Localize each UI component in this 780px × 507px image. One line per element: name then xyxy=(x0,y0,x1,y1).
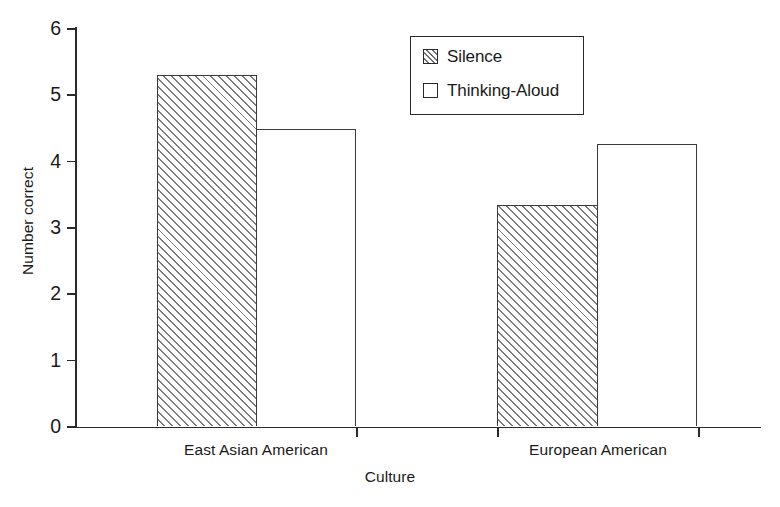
y-tick-1 xyxy=(67,360,76,362)
bar-east-asian-american-thinking-aloud xyxy=(256,129,356,427)
y-tick-label-5: 5 xyxy=(35,85,61,105)
bar-east-asian-american-silence xyxy=(157,75,257,426)
x-category-label-european-american: European American xyxy=(478,441,718,459)
y-tick-6 xyxy=(67,28,76,30)
legend-item-thinking-aloud: Thinking-Aloud xyxy=(423,82,559,99)
y-tick-label-0: 0 xyxy=(35,417,61,437)
y-tick-label-4: 4 xyxy=(35,152,61,172)
x-tick-group-divider-1 xyxy=(356,427,358,437)
y-tick-label-2: 2 xyxy=(35,284,61,304)
x-axis-line xyxy=(75,427,761,429)
legend-item-silence: Silence xyxy=(423,48,502,65)
y-tick-label-6: 6 xyxy=(35,19,61,39)
y-axis-title: Number correct xyxy=(19,141,37,301)
y-tick-4 xyxy=(67,161,76,163)
x-tick-group-divider-2 xyxy=(497,427,499,437)
x-tick-group-divider-3 xyxy=(698,427,700,437)
legend-label-silence: Silence xyxy=(447,48,502,65)
legend-swatch-white-icon xyxy=(423,83,438,98)
y-tick-label-3: 3 xyxy=(35,218,61,238)
bar-european-american-silence xyxy=(497,205,598,426)
bar-chart: 0 1 2 3 4 5 6 East Asian American Europe… xyxy=(0,0,780,507)
y-tick-5 xyxy=(67,94,76,96)
x-category-label-east-asian-american: East Asian American xyxy=(136,441,376,459)
x-axis-title: Culture xyxy=(0,468,780,486)
y-tick-3 xyxy=(67,227,76,229)
legend-swatch-hatched-icon xyxy=(423,49,438,64)
y-tick-label-1: 1 xyxy=(35,351,61,371)
bar-european-american-thinking-aloud xyxy=(597,144,698,426)
legend-label-thinking-aloud: Thinking-Aloud xyxy=(447,82,559,99)
legend: Silence Thinking-Aloud xyxy=(410,36,584,115)
y-tick-2 xyxy=(67,293,76,295)
